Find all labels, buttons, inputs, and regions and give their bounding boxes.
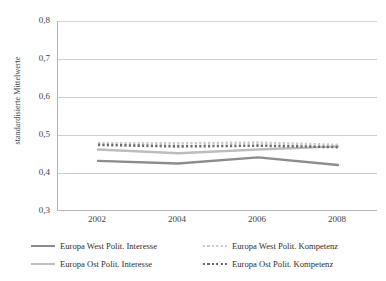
legend-column-right: Europa West Polit. KompetenzEuropa Ost P… xyxy=(203,238,338,274)
legend-item-label: Europa West Polit. Interesse xyxy=(60,241,157,251)
legend-solid-line-icon xyxy=(31,241,55,251)
legend-item-label: Europa Ost Polit. Kompetenz xyxy=(232,259,333,269)
legend-dotted-line-icon xyxy=(203,241,227,251)
series-layer xyxy=(58,21,378,211)
y-axis-tick: 0,4 xyxy=(4,167,50,177)
y-axis-tick: 0,6 xyxy=(4,91,50,101)
chart-legend: Europa West Polit. InteresseEuropa Ost P… xyxy=(0,238,386,281)
x-axis-tick-labels: 2002200420062008 xyxy=(57,214,377,230)
legend-item[interactable]: Europa West Polit. Kompetenz xyxy=(203,238,338,253)
y-axis-tick: 0,3 xyxy=(4,205,50,215)
legend-dotted-line-icon xyxy=(203,259,227,269)
series-line xyxy=(98,157,338,165)
x-axis-tick: 2008 xyxy=(328,214,346,224)
x-axis-tick: 2004 xyxy=(168,214,186,224)
chart-container: standardisierte Mittelwerte 0,80,70,60,5… xyxy=(0,0,386,281)
y-axis-tick: 0,8 xyxy=(4,15,50,25)
plot-area xyxy=(57,21,377,211)
x-axis-tick: 2006 xyxy=(248,214,266,224)
legend-item[interactable]: Europa West Polit. Interesse xyxy=(31,238,157,253)
legend-column-left: Europa West Polit. InteresseEuropa Ost P… xyxy=(31,238,157,274)
series-line xyxy=(98,145,338,147)
legend-item[interactable]: Europa Ost Polit. Kompetenz xyxy=(203,256,338,271)
chart-title xyxy=(0,0,386,2)
legend-item-label: Europa West Polit. Kompetenz xyxy=(232,241,338,251)
legend-item-label: Europa Ost Polit. Interesse xyxy=(60,259,152,269)
legend-item[interactable]: Europa Ost Polit. Interesse xyxy=(31,256,157,271)
y-axis-tick: 0,7 xyxy=(4,53,50,63)
legend-solid-line-icon xyxy=(31,259,55,269)
y-axis-tick: 0,5 xyxy=(4,129,50,139)
x-axis-tick: 2002 xyxy=(88,214,106,224)
